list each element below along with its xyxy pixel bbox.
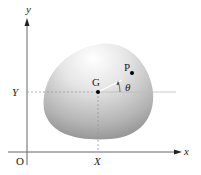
y-axis-arrow-icon: [25, 18, 30, 26]
origin-label: O: [16, 155, 24, 167]
y-coordinate-label: Y: [12, 86, 20, 98]
theta-label: θ: [125, 81, 131, 93]
centroid-diagram: y x O G P θ Y X: [0, 0, 201, 175]
centroid-point: [96, 90, 100, 94]
x-axis-label: x: [183, 145, 189, 157]
x-coordinate-label: X: [93, 155, 102, 167]
point-p-label: P: [124, 61, 130, 73]
x-axis-arrow-icon: [174, 150, 182, 155]
point-p: [130, 71, 134, 75]
centroid-label: G: [92, 76, 100, 88]
y-axis-label: y: [25, 3, 31, 15]
